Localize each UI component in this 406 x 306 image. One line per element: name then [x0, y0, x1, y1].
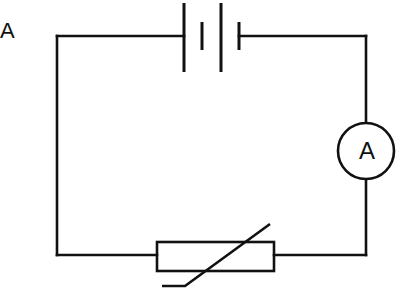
corner-label: A [0, 19, 15, 43]
thermistor-diagonal [162, 224, 270, 286]
ammeter-label: A [355, 138, 379, 164]
thermistor-body [157, 242, 274, 271]
thermistor-icon [157, 224, 274, 286]
circuit-diagram [0, 0, 406, 306]
battery-icon [184, 3, 239, 72]
